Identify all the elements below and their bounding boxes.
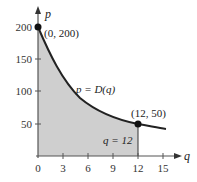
x-tick-label: 3 bbox=[60, 162, 66, 174]
q12-label: q = 12 bbox=[103, 134, 133, 146]
x-tick-label: 0 bbox=[35, 162, 41, 174]
y-tick-label: 150 bbox=[16, 53, 33, 65]
x-tick-label: 6 bbox=[85, 162, 91, 174]
x-tick-label: 15 bbox=[158, 162, 170, 174]
y-tick-label: 50 bbox=[21, 118, 33, 130]
y-axis-label: p bbox=[44, 7, 51, 21]
x-axis-label: q bbox=[184, 149, 190, 163]
point-end-label: (12, 50) bbox=[131, 107, 166, 120]
y-axis-arrow-icon bbox=[35, 6, 41, 14]
x-tick-label: 12 bbox=[133, 162, 144, 174]
y-tick-label: 200 bbox=[16, 21, 33, 33]
point-end bbox=[135, 121, 142, 128]
point-start-label: (0, 200) bbox=[44, 27, 79, 40]
point-start bbox=[35, 24, 42, 31]
demand-curve-chart: 200 150 100 50 0 3 6 9 12 15 p q (0, 200… bbox=[0, 0, 197, 182]
x-axis-arrow-icon bbox=[174, 153, 182, 159]
x-tick-label: 9 bbox=[110, 162, 116, 174]
y-tick-label: 100 bbox=[16, 85, 33, 97]
curve-label: p = D(q) bbox=[75, 83, 116, 96]
